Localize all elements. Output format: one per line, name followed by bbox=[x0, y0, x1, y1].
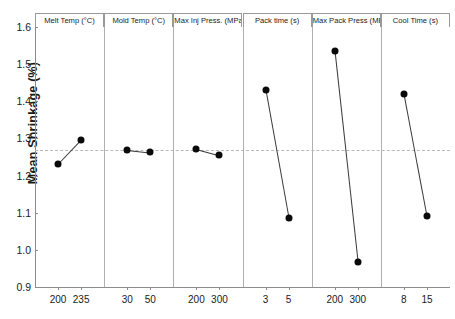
data-point bbox=[124, 146, 131, 153]
x-axis-tick-label: 300 bbox=[349, 294, 366, 305]
data-point bbox=[400, 90, 407, 97]
panel-title-1: Melt Temp (°C) bbox=[35, 13, 104, 27]
panel-title-2: Mold Temp (°C) bbox=[104, 13, 173, 27]
x-axis-tick bbox=[81, 287, 82, 290]
panel-header-row: Melt Temp (°C)Mold Temp (°C)Max Inj Pres… bbox=[35, 13, 450, 27]
y-axis-tick-label: 1.2 bbox=[16, 170, 35, 182]
panel-separator bbox=[243, 27, 244, 287]
x-axis-tick-label: 5 bbox=[286, 294, 292, 305]
data-point bbox=[193, 145, 200, 152]
y-axis-tick-label: 1.5 bbox=[16, 58, 35, 70]
x-axis-tick-label: 30 bbox=[122, 294, 133, 305]
data-point bbox=[216, 152, 223, 159]
x-axis-tick-label: 50 bbox=[145, 294, 156, 305]
x-axis-tick bbox=[150, 287, 151, 290]
x-axis-tick-label: 200 bbox=[50, 294, 67, 305]
x-axis-tick bbox=[427, 287, 428, 290]
x-axis-tick-label: 200 bbox=[326, 294, 343, 305]
x-axis-tick bbox=[219, 287, 220, 290]
panel-separator bbox=[104, 27, 105, 287]
x-axis-tick bbox=[335, 287, 336, 290]
y-axis-tick-label: 1.4 bbox=[16, 95, 35, 107]
x-axis-tick-label: 3 bbox=[263, 294, 269, 305]
y-axis-tick-label: 1.0 bbox=[16, 244, 35, 256]
x-axis-tick-label: 200 bbox=[188, 294, 205, 305]
effect-line-segment bbox=[403, 94, 427, 217]
x-axis-tick-label: 300 bbox=[211, 294, 228, 305]
panel-title-6: Cool Time (s) bbox=[381, 13, 450, 27]
x-axis-line bbox=[35, 287, 450, 288]
x-axis-tick-label: 15 bbox=[421, 294, 432, 305]
data-point bbox=[354, 258, 361, 265]
panel-title-3: Max Inj Press. (MPa) bbox=[173, 13, 242, 27]
x-axis-tick bbox=[58, 287, 59, 290]
x-axis-tick bbox=[196, 287, 197, 290]
x-axis-tick bbox=[289, 287, 290, 290]
panel-title-5: Max Pack Press (MPa) bbox=[312, 13, 381, 27]
data-point bbox=[331, 48, 338, 55]
y-axis-tick-label: 1.3 bbox=[16, 132, 35, 144]
effect-line-segment bbox=[265, 91, 289, 219]
data-point bbox=[262, 87, 269, 94]
panel-separator bbox=[381, 27, 382, 287]
data-point bbox=[147, 149, 154, 156]
effect-line-segment bbox=[334, 52, 358, 263]
panel-separator bbox=[173, 27, 174, 287]
data-point bbox=[78, 137, 85, 144]
y-axis-tick-label: 0.9 bbox=[16, 281, 35, 293]
x-axis-tick-label: 235 bbox=[73, 294, 90, 305]
x-axis-tick bbox=[266, 287, 267, 290]
data-point bbox=[55, 161, 62, 168]
effect-line-segment bbox=[58, 140, 82, 165]
y-axis-tick-label: 1.1 bbox=[16, 207, 35, 219]
data-point bbox=[285, 215, 292, 222]
main-effects-plot: Mean Shrinkage (%) Melt Temp (°C)Mold Te… bbox=[0, 0, 455, 319]
panel-separator bbox=[312, 27, 313, 287]
plot-area: 0.91.01.11.21.31.41.51.6 bbox=[35, 27, 450, 287]
x-axis-tick bbox=[127, 287, 128, 290]
x-axis-tick bbox=[358, 287, 359, 290]
data-point bbox=[423, 213, 430, 220]
panel-title-4: Pack time (s) bbox=[243, 13, 312, 27]
x-axis-tick-label: 8 bbox=[401, 294, 407, 305]
y-axis-tick-label: 1.6 bbox=[16, 21, 35, 33]
x-axis-tick bbox=[404, 287, 405, 290]
